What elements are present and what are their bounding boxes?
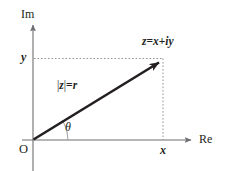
argand-diagram-canvas [0,0,227,171]
modulus-vector [34,63,160,140]
x-tick-label: x [160,144,166,156]
point-label-z-equals-x-plus-iy: z=x+iy [142,36,174,48]
origin-label: O [19,143,28,156]
point-label-iy-part: iy [165,35,173,47]
angle-theta-label: θ [65,121,71,133]
argand-diagram: Im Re O y x θ z=x+iy |z|=r [0,0,227,171]
y-tick-label: y [21,51,26,63]
imaginary-axis-label: Im [21,8,34,20]
modulus-r-part: r [73,79,77,91]
modulus-label: |z|=r [57,80,77,92]
real-axis-label: Re [199,133,212,145]
